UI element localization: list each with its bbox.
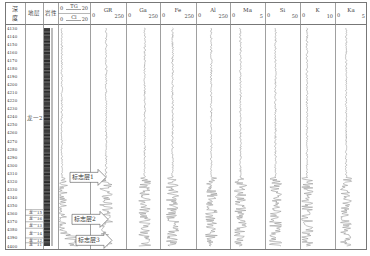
log-curve-tg_cl [60,28,83,246]
strata-label: 龙一13 [29,222,43,228]
depth-tick: 4210 [7,90,18,95]
depth-tick: 4300 [7,163,18,168]
log-curve-Ga [139,28,151,246]
svg-text:标志层2: 标志层2 [74,215,96,223]
depth-axis: 4130414041504160417041804190420042104220… [7,26,18,249]
log-curve-Ma [234,28,247,246]
depth-tick: 4310 [7,171,18,176]
strata-label: 龙一14 [29,230,43,236]
log-curve-Ka [341,28,352,246]
marker-layer-2: 标志层2 [72,211,108,227]
svg-text:5: 5 [362,13,365,19]
svg-text:10: 10 [327,13,333,19]
svg-text:0: 0 [92,12,95,18]
svg-text:0: 0 [162,12,165,18]
header-Si: Si [280,7,286,13]
depth-tick: 4370 [7,219,18,224]
header-Fe: Fe [175,7,182,13]
log-curve-Fe [166,28,179,246]
depth-tick: 4280 [7,147,18,152]
well-log-chart: 深度地层岩性0TG200Cl200GR2500Ga2500Fe2500Al250… [0,0,370,256]
depth-tick: 4270 [7,139,18,144]
depth-tick: 4200 [7,82,18,87]
depth-tick: 4250 [7,122,18,127]
svg-text:标志层3: 标志层3 [78,236,100,244]
svg-text:0: 0 [232,12,235,18]
depth-tick: 4320 [7,179,18,184]
svg-text:0: 0 [198,12,201,18]
svg-text:250: 250 [114,13,124,19]
log-curve-K [302,28,313,246]
header-lithology: 岩性 [45,9,57,17]
depth-tick: 4380 [7,227,18,232]
lithology-column [44,28,53,246]
depth-tick: 4290 [7,155,18,160]
strata-label: 龙一11 [29,241,42,247]
svg-text:5: 5 [260,13,263,19]
svg-text:250: 250 [184,13,194,19]
depth-tick: 4140 [7,34,18,39]
depth-tick: 4260 [7,130,18,135]
strata-column: 龙一2龙一15龙一16龙一13龙一14龙一12龙一11 [25,114,43,247]
header-Ga: Ga [139,7,147,13]
depth-tick: 4400 [7,244,18,249]
header-K: K [315,7,320,13]
header-Ka: Ka [347,7,355,13]
log-curve-Si [269,28,281,246]
strata-label: 龙一15 [29,209,43,215]
marker-layer-1: 标志层1 [70,169,106,185]
marker-layer-3: 标志层3 [76,232,112,248]
depth-tick: 4390 [7,235,18,240]
column-dividers [26,3,336,249]
svg-text:0: 0 [60,16,63,22]
svg-text:0: 0 [337,12,340,18]
header-GR: GR [104,7,113,13]
svg-text:0: 0 [267,12,270,18]
depth-tick: 4330 [7,187,18,192]
strata-label: 龙一16 [29,215,43,221]
depth-tick: 4190 [7,74,18,79]
depth-tick: 4170 [7,58,18,63]
depth-tick: 4340 [7,195,18,200]
svg-text:标志层1: 标志层1 [72,173,94,181]
svg-text:50: 50 [292,13,298,19]
depth-tick: 4150 [7,42,18,47]
depth-tick: 4130 [7,26,18,31]
log-curves [60,28,352,246]
column-headers: 深度地层岩性0TG200Cl200GR2500Ga2500Fe2500Al250… [12,3,365,22]
marker-layers: 标志层1标志层2标志层3 [70,169,112,248]
svg-text:250: 250 [218,13,228,19]
depth-tick: 4220 [7,98,18,103]
svg-text:0: 0 [302,12,305,18]
header-Ma: Ma [243,7,253,13]
header-strata: 地层 [28,9,40,17]
strata-label: 龙一2 [27,114,43,122]
header-depth: 深 [12,5,18,13]
header-cl: Cl [71,14,77,20]
svg-text:0: 0 [128,12,131,18]
svg-text:20: 20 [82,5,88,11]
depth-tick: 4240 [7,114,18,119]
depth-tick: 4230 [7,106,18,111]
svg-text:20: 20 [82,16,88,22]
svg-text:0: 0 [60,5,63,11]
depth-tick: 4160 [7,50,18,55]
svg-text:250: 250 [148,13,158,19]
depth-tick: 4180 [7,66,18,71]
depth-tick: 4350 [7,203,18,208]
svg-text:度: 度 [12,14,18,22]
depth-tick: 4360 [7,211,18,216]
header-tg: TG [70,3,77,9]
log-curve-Al [205,28,217,246]
header-Al: Al [209,7,216,13]
